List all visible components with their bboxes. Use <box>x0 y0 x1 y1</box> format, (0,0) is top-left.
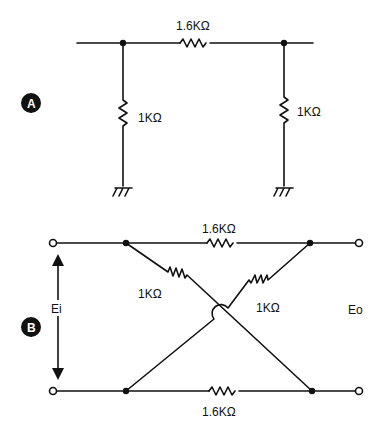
output-terminal-bottom <box>356 388 363 395</box>
figure-b: 1.6KΩ 1.6KΩ 1KΩ 1KΩ Ei Eo B <box>21 222 363 419</box>
schematic: 1.6KΩ 1KΩ 1KΩ A 1.6KΩ 1.6KΩ 1KΩ <box>0 0 386 434</box>
badge-b-text: B <box>27 321 36 335</box>
top-resistor-label: 1.6KΩ <box>202 222 236 236</box>
input-terminal-bottom <box>50 388 57 395</box>
resistor-icon <box>207 239 233 247</box>
figure-a: 1.6KΩ 1KΩ 1KΩ A <box>21 19 321 196</box>
right-shunt-label: 1KΩ <box>297 105 321 119</box>
circuit-diagram: 1.6KΩ 1KΩ 1KΩ A 1.6KΩ 1.6KΩ 1KΩ <box>0 0 386 434</box>
arrow-up-icon <box>52 254 64 266</box>
arrow-down-icon <box>52 368 64 380</box>
resistor-icon <box>119 43 127 186</box>
resistor-icon <box>209 387 235 395</box>
cross-left-label: 1KΩ <box>138 287 162 301</box>
resistor-icon <box>280 43 288 186</box>
ground-icon <box>113 188 132 196</box>
bottom-resistor-label: 1.6KΩ <box>202 405 236 419</box>
cross-right-label: 1KΩ <box>256 301 280 315</box>
input-terminal-top <box>50 240 57 247</box>
input-voltage-label: Ei <box>51 302 62 316</box>
ground-icon <box>274 188 293 196</box>
series-resistor-label: 1.6KΩ <box>176 19 210 33</box>
output-voltage-label: Eo <box>348 303 363 317</box>
resistor-icon <box>126 243 310 391</box>
left-shunt-label: 1KΩ <box>138 111 162 125</box>
resistor-icon <box>180 39 206 47</box>
badge-a-text: A <box>27 97 36 111</box>
output-terminal-top <box>356 240 363 247</box>
